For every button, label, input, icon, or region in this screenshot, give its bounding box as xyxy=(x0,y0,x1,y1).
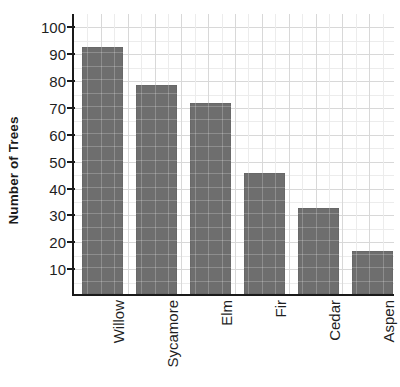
bar[interactable] xyxy=(298,208,339,294)
y-axis-tick-label: 90 xyxy=(22,47,66,62)
y-axis-tick-mark xyxy=(67,268,75,270)
y-axis-tick-mark xyxy=(67,188,75,190)
bar-gridline-overlay xyxy=(244,173,285,294)
x-axis-tick-label: Cedar xyxy=(325,300,345,387)
bar[interactable] xyxy=(352,251,393,294)
bar-gridline-overlay xyxy=(136,85,177,294)
y-axis-tick-label: 100 xyxy=(22,20,66,35)
y-axis-tick-mark xyxy=(67,214,75,216)
bar-chart-figure: Number of Trees 102030405060708090100 Wi… xyxy=(0,0,400,387)
bar[interactable] xyxy=(136,85,177,294)
x-axis-tick-label: Elm xyxy=(217,300,237,387)
x-axis-tick-label: Willow xyxy=(109,300,129,387)
y-axis-tick-label: 30 xyxy=(22,208,66,223)
y-axis-tick-mark xyxy=(67,26,75,28)
y-axis-tick-label: 50 xyxy=(22,154,66,169)
bar-gridline-overlay xyxy=(298,208,339,294)
y-axis-tick-mark xyxy=(67,241,75,243)
y-axis-tick-mark xyxy=(67,80,75,82)
y-axis-tick-labels: 102030405060708090100 xyxy=(22,14,66,296)
y-axis-tick-label: 40 xyxy=(22,181,66,196)
bar[interactable] xyxy=(82,47,123,294)
y-axis-tick-mark xyxy=(67,53,75,55)
y-axis-tick-mark xyxy=(67,134,75,136)
x-axis-tick-label: Sycamore xyxy=(163,300,183,387)
bar-gridline-overlay xyxy=(352,251,393,294)
x-axis-tick-label: Fir xyxy=(271,300,291,387)
bars-container xyxy=(74,14,394,294)
bar-gridline-overlay xyxy=(82,47,123,294)
y-axis-tick-mark xyxy=(67,107,75,109)
bar[interactable] xyxy=(244,173,285,294)
y-axis-tick-label: 80 xyxy=(22,74,66,89)
y-axis-tick-label: 10 xyxy=(22,262,66,277)
x-axis-tick-label: Aspen xyxy=(379,300,399,387)
bar[interactable] xyxy=(190,103,231,294)
plot-area xyxy=(72,14,394,296)
y-axis-tick-label: 60 xyxy=(22,127,66,142)
y-axis-tick-label: 70 xyxy=(22,101,66,116)
x-axis-tick-labels: WillowSycamoreElmFirCedarAspen xyxy=(72,300,394,387)
y-axis-title-text: Number of Trees xyxy=(6,116,21,224)
y-axis-tick-label: 20 xyxy=(22,235,66,250)
y-axis-tick-mark xyxy=(67,161,75,163)
bar-gridline-overlay xyxy=(190,103,231,294)
